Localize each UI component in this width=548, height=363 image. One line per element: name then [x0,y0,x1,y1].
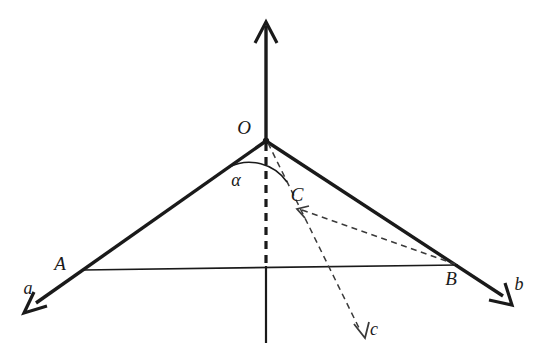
ray-label-c: c [370,319,378,339]
point-label-C: C [291,184,304,205]
ray-label-a: a [24,278,33,298]
ray-b-line [266,141,503,296]
segment-CB-line [302,210,455,264]
angle-label-alpha: α [231,170,241,190]
ray-c-arrow-icon [354,322,369,338]
point-label-O: O [237,117,251,138]
point-label-B: B [445,268,457,289]
point-label-A: A [52,253,66,274]
geometry-figure: O A B C a b c α [0,0,548,363]
segment-AB-line [83,265,458,270]
geometry-diagram-canvas: O A B C a b c α [0,0,548,363]
vertex-O-dot [263,138,269,144]
ray-label-b: b [515,274,524,294]
